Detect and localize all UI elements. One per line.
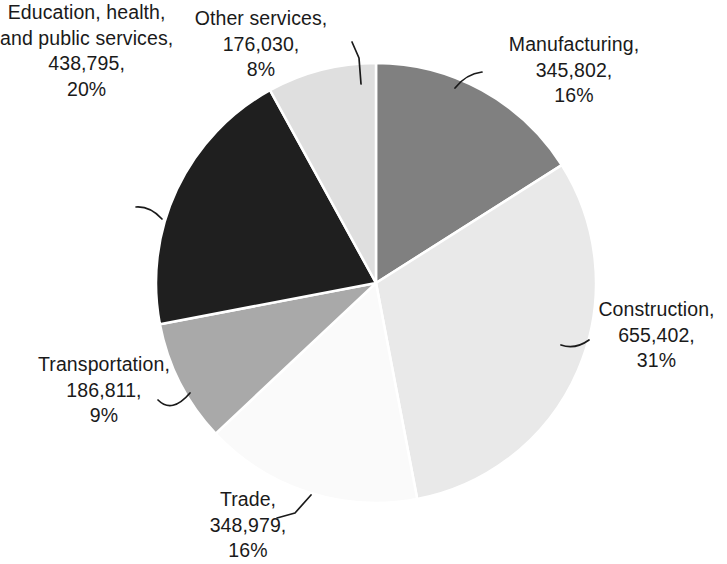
slice-label-construction: Construction, 655,402, 31% <box>586 297 727 374</box>
slice-label-other-services: Other services, 176,030, 8% <box>168 6 354 83</box>
pie-slices-group <box>156 63 596 503</box>
slice-label-trade: Trade, 348,979, 16% <box>172 487 324 564</box>
leader-line-education-health-public-services <box>136 207 162 219</box>
slice-label-manufacturing: Manufacturing, 345,802, 16% <box>476 32 672 109</box>
pie-chart: Other services, 176,030, 8% Manufacturin… <box>0 0 727 564</box>
slice-label-education-health-public-services: Education, health, and public services, … <box>0 0 173 102</box>
slice-label-transportation: Transportation, 186,811, 9% <box>14 352 194 429</box>
